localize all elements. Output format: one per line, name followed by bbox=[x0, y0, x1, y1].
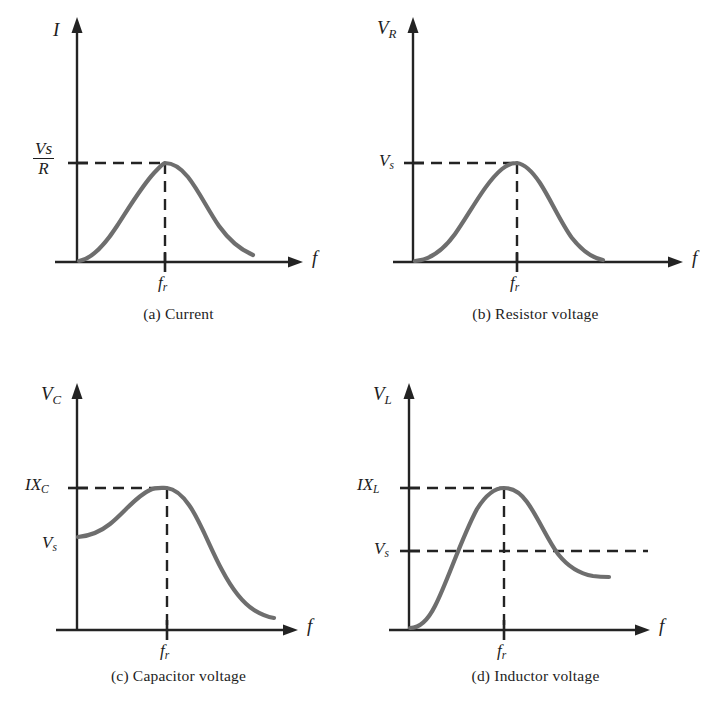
x-tick-label: fr bbox=[160, 642, 169, 662]
y-axis bbox=[404, 383, 415, 630]
y-tick-label: IXC bbox=[25, 476, 49, 496]
origin-value-label: Vs bbox=[42, 534, 57, 554]
resonance-curve bbox=[415, 163, 603, 261]
y-axis-label: I bbox=[53, 20, 59, 39]
x-tick-label: fr bbox=[510, 274, 519, 294]
panel-capacitor-voltage: VC IXC Vs fr f (c) Capacitor voltage bbox=[0, 362, 357, 724]
x-axis bbox=[56, 625, 298, 636]
y-axis bbox=[408, 17, 419, 262]
y-axis bbox=[72, 17, 83, 262]
baseline-label: Vs bbox=[374, 540, 389, 560]
y-axis-label: VL bbox=[373, 384, 392, 407]
resonance-curve bbox=[79, 163, 253, 261]
x-tick-label: fr bbox=[158, 274, 167, 294]
x-axis bbox=[55, 257, 303, 268]
x-axis-label: f bbox=[307, 616, 312, 635]
x-axis-label: f bbox=[659, 616, 664, 635]
panel-caption: (b) Resistor voltage bbox=[357, 305, 714, 323]
panel-inductor-voltage: VL IXL Vs fr f (d) Inductor voltage bbox=[357, 362, 714, 724]
y-tick-label: Vs bbox=[379, 152, 394, 172]
resonance-curve bbox=[78, 488, 274, 618]
y-axis-label: VC bbox=[41, 384, 61, 407]
panel-caption: (c) Capacitor voltage bbox=[0, 667, 357, 685]
panel-caption: (a) Current bbox=[0, 305, 357, 323]
panel-resistor-voltage: VR Vs fr f (b) Resistor voltage bbox=[357, 0, 714, 362]
plot-area-capacitor-voltage bbox=[0, 362, 357, 672]
x-axis bbox=[389, 625, 650, 636]
y-tick-label: IXL bbox=[357, 476, 379, 496]
x-axis-label: f bbox=[312, 248, 317, 267]
plot-area-resistor-voltage bbox=[357, 0, 714, 310]
x-axis bbox=[393, 257, 683, 268]
x-axis-label: f bbox=[692, 248, 697, 267]
y-tick-label: Vs R bbox=[33, 140, 54, 178]
panel-caption: (d) Inductor voltage bbox=[357, 667, 714, 685]
panel-current: I Vs R fr f (a) Current bbox=[0, 0, 357, 362]
y-axis-label: VR bbox=[377, 18, 397, 41]
x-tick-label: fr bbox=[497, 642, 506, 662]
figure-grid: I Vs R fr f (a) Current bbox=[0, 0, 714, 724]
resonance-curve bbox=[410, 488, 609, 628]
y-axis bbox=[72, 383, 83, 630]
